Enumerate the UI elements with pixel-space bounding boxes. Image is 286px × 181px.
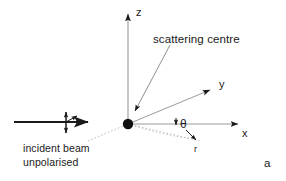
incident-beam-label-line2: unpolarised	[23, 156, 78, 168]
scattering-centre-label: scattering centre	[153, 33, 240, 47]
axis-label-x: x	[242, 127, 248, 140]
figure-caption-label: a	[264, 157, 271, 171]
theta-label: θ	[180, 117, 187, 131]
axis-y	[128, 90, 210, 124]
scattering-geometry-figure: z y x scattering centre θ r incident bea…	[0, 0, 286, 181]
scattering-centre-dot	[123, 119, 133, 129]
incident-beam-label-line1: incident beam	[23, 142, 90, 154]
axis-label-z: z	[136, 6, 142, 19]
axis-label-y: y	[219, 78, 225, 91]
scattering-centre-leader-line	[135, 45, 170, 111]
r-vector-label: r	[194, 144, 197, 155]
